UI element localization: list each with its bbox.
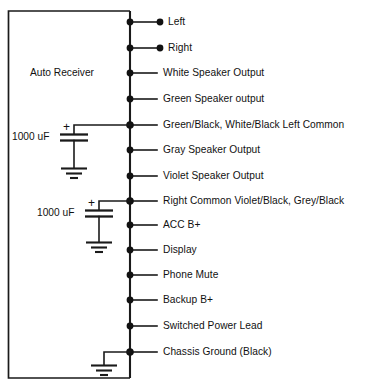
pin-label-left-common: Green/Black, White/Black Left Common [163,119,344,130]
junction-dot-right [127,45,134,52]
chassis-ground-lead [104,352,130,365]
junction-dot-white-speaker [127,70,134,77]
capacitor-1-group [60,125,130,178]
wiring-diagram: Auto Receiver 1000 uF + 1000 uF + Left R… [0,0,371,391]
pin-label-chassis-ground: Chassis Ground (Black) [163,346,272,357]
junction-dot-display [127,247,134,254]
pin-label-left: Left [168,16,185,27]
capacitor-1-ground-symbol [61,169,87,179]
pin-label-switched-power-lead: Switched Power Lead [163,320,263,331]
capacitor-1-top-lead [74,125,130,134]
junction-dot-green-speaker [127,96,134,103]
junction-dot-switched-power [127,323,134,330]
pin-label-white-speaker-output: White Speaker Output [163,67,264,78]
junction-dot-phone-mute [127,272,134,279]
junction-dot-left [127,19,134,26]
terminal-end-dots [157,19,164,52]
terminal-dot-left [157,19,164,26]
chassis-ground-group [91,352,130,375]
pin-label-right: Right [168,42,192,53]
capacitor-2-value-label: 1000 uF [37,207,74,218]
pin-label-gray-speaker-output: Gray Speaker Output [163,144,260,155]
junction-dot-violet-speaker [127,173,134,180]
capacitor-1-polarity-sign: + [63,121,70,133]
junction-dot-backup-b-plus [127,297,134,304]
pin-label-right-common: Right Common Violet/Black, Grey/Black [163,195,344,206]
pin-stub-wires [130,22,160,352]
chassis-ground-symbol [91,366,117,376]
capacitor-2-top-lead [99,201,130,210]
capacitor-1-value-label: 1000 uF [12,131,49,142]
capacitor-2-ground-symbol [86,243,112,253]
capacitor-2-polarity-sign: + [88,197,95,209]
junction-dot-acc-b-plus [127,222,134,229]
junction-dot-gray-speaker [127,147,134,154]
terminal-dot-right [157,45,164,52]
pin-label-acc-b-plus: ACC B+ [163,219,200,230]
pin-label-violet-speaker-output: Violet Speaker Output [163,170,264,181]
pin-label-display: Display [163,244,197,255]
pin-label-phone-mute: Phone Mute [163,269,218,280]
pin-label-backup-b-plus: Backup B+ [163,294,213,305]
pin-label-green-speaker-output: Green Speaker output [163,93,264,104]
receiver-block-label: Auto Receiver [30,67,94,78]
